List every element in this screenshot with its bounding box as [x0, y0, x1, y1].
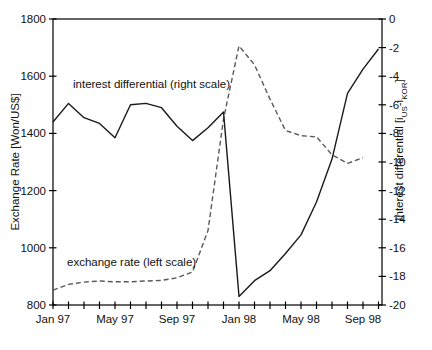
- right-axis-tick-label: -16: [389, 242, 406, 254]
- left-axis: 18001600140012001000800: [20, 13, 56, 311]
- right-axis-title-sub-us: US: [400, 106, 409, 117]
- right-axis-tick-label: -18: [389, 270, 406, 282]
- right-axis-title-sub-kor: KOR: [400, 83, 409, 100]
- left-axis-tick-label: 1000: [20, 242, 46, 254]
- right-axis-title-part: ]: [393, 79, 405, 82]
- right-axis-title-part: Interest differential [i: [393, 117, 405, 220]
- chart-figure: 180016001400120010008000-2-4-6-8-10-12-1…: [0, 0, 432, 350]
- left-axis-tick-label: 1200: [20, 185, 46, 197]
- left-axis-tick-label: 1600: [20, 70, 46, 82]
- annotation-exchange-rate: exchange rate (left scale): [67, 256, 196, 268]
- chart-canvas: 180016001400120010008000-2-4-6-8-10-12-1…: [0, 0, 432, 350]
- annotation-interest-differential: interest differential (right scale): [73, 78, 230, 90]
- x-axis-tick-label: Sep 97: [159, 313, 195, 325]
- right-axis-tick-label: -2: [389, 42, 399, 54]
- x-axis-tick-label: Sep 98: [345, 313, 381, 325]
- left-axis-tick-label: 1400: [20, 127, 46, 139]
- left-axis-tick-label: 800: [27, 299, 46, 311]
- left-axis-title-text: Exchange Rate [Won/US$]: [9, 93, 21, 230]
- x-axis-tick-label: Jan 97: [36, 313, 71, 325]
- x-axis-tick-label: Jan 98: [222, 313, 257, 325]
- x-axis-tick-label: May 97: [96, 313, 134, 325]
- right-axis-tick-label: -20: [389, 299, 406, 311]
- right-axis-title: Interest differential [iUS-iKOR]: [393, 79, 408, 220]
- x-axis-tick-label: May 98: [282, 313, 320, 325]
- right-axis-title-part: -i: [393, 100, 405, 106]
- right-axis-tick-label: 0: [389, 13, 395, 25]
- left-axis-title: Exchange Rate [Won/US$]: [9, 93, 21, 230]
- left-axis-tick-label: 1800: [20, 13, 46, 25]
